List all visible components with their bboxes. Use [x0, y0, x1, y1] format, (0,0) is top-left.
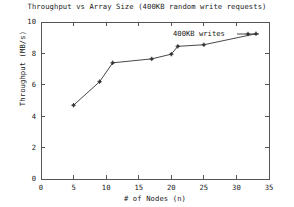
- plot-area: [0, 0, 294, 207]
- tick-marks: [41, 22, 269, 179]
- chart-container: Throughput vs Array Size (400KB random w…: [0, 0, 294, 207]
- data-point-marker: [150, 57, 154, 61]
- data-point-marker: [202, 43, 206, 47]
- series-markers: [71, 32, 258, 108]
- axis-frame: [41, 22, 269, 179]
- series-line: [74, 34, 256, 105]
